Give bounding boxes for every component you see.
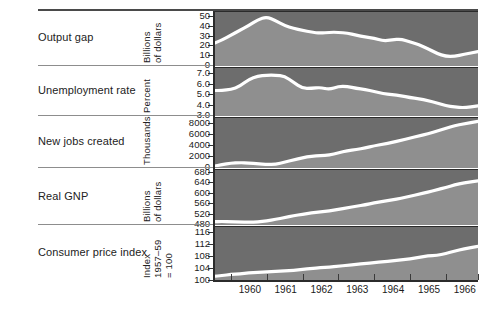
y-tick-label: 640 <box>194 177 210 187</box>
x-axis-ticks <box>213 274 478 280</box>
row-label-2: New jobs created <box>38 135 125 147</box>
row-divider <box>38 65 478 66</box>
y-axis-labels-1: 3.04.05.06.07.0 <box>176 67 210 115</box>
y-tick-label: 2000 <box>189 151 210 161</box>
row-label-1: Unemployment rate <box>38 84 136 96</box>
y-tick-label: 5.0 <box>197 89 210 99</box>
axis-unit-line: Billions <box>141 190 152 222</box>
x-tick-label: 1963 <box>346 284 368 295</box>
y-tick-label: 116 <box>195 227 210 237</box>
x-tick-mark <box>303 274 304 280</box>
x-tick-mark <box>338 274 339 280</box>
x-axis-line <box>213 280 478 282</box>
row-divider <box>38 167 478 168</box>
y-tick-label: 600 <box>194 188 210 198</box>
y-tick-label: 30 <box>199 31 210 41</box>
area-fill <box>213 118 478 166</box>
axis-unit-line: Billions <box>141 31 152 63</box>
x-tick-mark <box>446 274 447 280</box>
x-tick-mark <box>478 274 479 280</box>
x-tick-mark <box>231 274 232 280</box>
y-tick-label: 112 <box>195 239 210 249</box>
area-fill <box>213 170 478 222</box>
axis-unit-line: = 100 <box>163 253 174 278</box>
economic-indicators-figure: Output gapBillionsof dollars01020304050U… <box>0 0 494 321</box>
y-tick-label: 520 <box>194 209 210 219</box>
y-tick-label: 40 <box>199 21 210 31</box>
y-tick-label: 680 <box>194 167 210 177</box>
y-tick-label: 108 <box>194 251 210 261</box>
chart-panel-1 <box>213 67 478 115</box>
axis-unit-line: of dollars <box>152 22 163 63</box>
x-tick-label: 1965 <box>418 284 440 295</box>
y-tick-label: 10 <box>199 50 210 60</box>
y-tick-label: 560 <box>194 198 210 208</box>
x-tick-label: 1964 <box>382 284 404 295</box>
axis-unit-line: of dollars <box>152 181 163 222</box>
x-tick-mark <box>267 274 268 280</box>
y-tick-label: 100 <box>194 275 210 285</box>
y-axis-labels-3: 480520560600640680 <box>176 169 210 224</box>
row-divider <box>38 224 478 225</box>
row-label-0: Output gap <box>38 31 93 43</box>
row-divider <box>38 115 478 116</box>
y-tick-label: 6.0 <box>197 79 210 89</box>
y-tick-label: 20 <box>199 40 210 50</box>
area-fill <box>213 227 478 276</box>
y-axis-labels-4: 100104108112116 <box>176 226 210 280</box>
x-tick-label: 1962 <box>310 284 332 295</box>
y-tick-label: 6000 <box>189 129 210 139</box>
y-axis-labels-2: 02000400060008000 <box>176 117 210 167</box>
y-tick-label: 104 <box>194 263 210 273</box>
chart-panel-4 <box>213 226 478 280</box>
axis-unit-line: Thousands <box>141 116 152 165</box>
axis-unit-line: Index <box>141 254 152 278</box>
x-tick-label: 1961 <box>275 284 297 295</box>
plot-left-edge <box>213 11 215 280</box>
row-label-3: Real GNP <box>38 190 88 202</box>
axis-unit-line: Percent <box>141 79 152 113</box>
y-tick-label: 7.0 <box>197 68 210 78</box>
y-tick-label: 4000 <box>189 140 210 150</box>
x-tick-mark <box>374 274 375 280</box>
x-tick-label: 1966 <box>454 284 476 295</box>
y-tick-label: 50 <box>199 11 210 21</box>
x-axis-labels: 1960196119621963196419651966 <box>213 284 478 298</box>
y-tick-label: 8000 <box>189 118 210 128</box>
y-tick-label: 4.0 <box>197 100 210 110</box>
y-axis-labels-0: 01020304050 <box>176 11 210 65</box>
axis-unit-line: 1957–59 <box>152 240 163 278</box>
chart-panel-3 <box>213 169 478 224</box>
row-label-4: Consumer price index <box>38 246 147 258</box>
x-tick-mark <box>410 274 411 280</box>
chart-panel-0 <box>213 11 478 65</box>
x-tick-label: 1960 <box>239 284 261 295</box>
chart-panel-2 <box>213 117 478 167</box>
